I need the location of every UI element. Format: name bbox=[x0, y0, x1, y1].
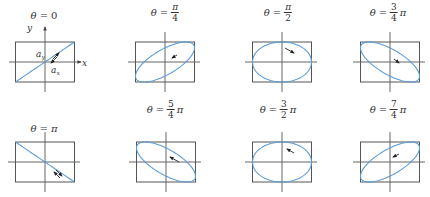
direction-arrow-icon bbox=[285, 48, 294, 53]
theta-fraction: π2 bbox=[284, 2, 292, 23]
direction-arrow-icon bbox=[393, 154, 399, 157]
panel-p3 bbox=[353, 32, 425, 92]
fraction-numerator: 3 bbox=[280, 99, 288, 110]
diagram-canvas: yxayax bbox=[0, 0, 430, 197]
panel-p1 bbox=[128, 32, 200, 92]
pi-symbol: π bbox=[400, 7, 407, 18]
theta-label-p5: θ=54π bbox=[147, 99, 184, 120]
fraction-numerator: 7 bbox=[390, 99, 398, 110]
theta-label-p2: θ=π2 bbox=[264, 2, 292, 23]
theta-fraction: 34 bbox=[390, 2, 398, 23]
equals-sign: = bbox=[160, 7, 168, 18]
theta-label-p6: θ=32π bbox=[260, 99, 297, 120]
pi-symbol: π bbox=[177, 104, 184, 115]
theta-symbol: θ bbox=[147, 104, 153, 115]
theta-fraction: 32 bbox=[280, 99, 288, 120]
panel-p4 bbox=[8, 132, 80, 192]
theta-label-p1: θ=π4 bbox=[151, 2, 179, 23]
direction-arrow-icon bbox=[287, 149, 294, 153]
fraction-numerator: 3 bbox=[390, 2, 398, 13]
equals-sign: = bbox=[40, 123, 48, 134]
theta-label-p7: θ=74π bbox=[370, 99, 407, 120]
theta-symbol: θ bbox=[31, 123, 37, 134]
theta-symbol: θ bbox=[31, 10, 37, 21]
theta-fraction: 74 bbox=[390, 99, 398, 120]
y-axis-label: y bbox=[26, 23, 33, 33]
fraction-denominator: 2 bbox=[285, 13, 291, 23]
polarization-diagram: yxayax θ=0θ=π4θ=π2θ=34πθ=πθ=54πθ=32πθ=74… bbox=[0, 0, 430, 197]
equals-sign: = bbox=[40, 10, 48, 21]
theta-value: π bbox=[51, 123, 58, 134]
equals-sign: = bbox=[273, 7, 281, 18]
amplitude-ax-label: ax bbox=[51, 65, 60, 76]
equals-sign: = bbox=[156, 104, 164, 115]
fraction-denominator: 4 bbox=[391, 13, 397, 23]
equals-sign: = bbox=[379, 104, 387, 115]
theta-symbol: θ bbox=[264, 7, 270, 18]
fraction-numerator: π bbox=[171, 2, 179, 13]
panel-p7 bbox=[353, 132, 425, 192]
fraction-denominator: 4 bbox=[168, 110, 174, 120]
theta-label-p0: θ=0 bbox=[31, 10, 58, 21]
x-axis-label: x bbox=[82, 58, 87, 68]
theta-fraction: 54 bbox=[167, 99, 175, 120]
panel-p0: yxayax bbox=[9, 23, 87, 92]
theta-symbol: θ bbox=[260, 104, 266, 115]
theta-symbol: θ bbox=[151, 7, 157, 18]
panels-layer: yxayax bbox=[8, 23, 425, 192]
pi-symbol: π bbox=[290, 104, 297, 115]
equals-sign: = bbox=[379, 7, 387, 18]
amplitude-ay-label: ay bbox=[36, 49, 45, 61]
theta-label-p4: θ=π bbox=[31, 123, 58, 134]
fraction-denominator: 4 bbox=[172, 13, 178, 23]
theta-label-p3: θ=34π bbox=[370, 2, 407, 23]
equals-sign: = bbox=[269, 104, 277, 115]
panel-p5 bbox=[129, 132, 201, 192]
theta-value: 0 bbox=[51, 10, 57, 21]
panel-p2 bbox=[245, 32, 317, 92]
theta-symbol: θ bbox=[370, 7, 376, 18]
panel-p6 bbox=[245, 132, 317, 192]
theta-fraction: π4 bbox=[171, 2, 179, 23]
fraction-denominator: 4 bbox=[391, 110, 397, 120]
theta-symbol: θ bbox=[370, 104, 376, 115]
direction-arrow-icon bbox=[170, 157, 179, 162]
fraction-numerator: 5 bbox=[167, 99, 175, 110]
pi-symbol: π bbox=[400, 104, 407, 115]
fraction-denominator: 2 bbox=[281, 110, 287, 120]
fraction-numerator: π bbox=[284, 2, 292, 13]
direction-arrow-icon bbox=[172, 55, 177, 58]
